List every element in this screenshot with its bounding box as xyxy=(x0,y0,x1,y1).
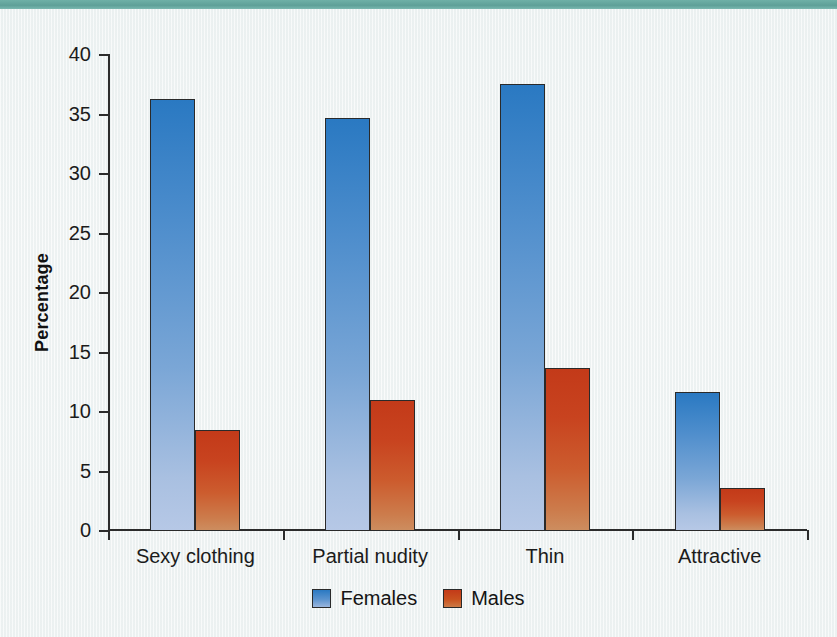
legend-swatch-icon-males xyxy=(443,589,462,608)
legend-swatch-icon-females xyxy=(312,589,331,608)
y-tick-mark xyxy=(99,173,109,175)
y-tick-mark xyxy=(99,411,109,413)
bar-chart-plot-area: Percentage 0510152025303540 Sexy clothin… xyxy=(0,0,837,637)
bar-females-4 xyxy=(675,392,720,531)
x-category-label-4: Attractive xyxy=(678,545,761,568)
chart-figure: Percentage 0510152025303540 Sexy clothin… xyxy=(0,0,837,637)
y-tick-label: 30 xyxy=(45,163,91,183)
x-category-label-1: Sexy clothing xyxy=(136,545,255,568)
y-tick-label: 20 xyxy=(45,282,91,302)
x-tick-mark xyxy=(807,530,809,540)
bar-males-1 xyxy=(195,430,240,531)
y-tick-label: 35 xyxy=(45,104,91,124)
legend-item-males: Males xyxy=(443,588,524,608)
bar-females-2 xyxy=(325,118,370,531)
x-tick-mark xyxy=(108,530,110,540)
y-tick-mark xyxy=(99,352,109,354)
y-tick-label: 15 xyxy=(45,342,91,362)
chart-legend: FemalesMales xyxy=(0,588,837,608)
y-tick-label: 40 xyxy=(45,44,91,64)
y-tick-label: 25 xyxy=(45,223,91,243)
y-tick-mark xyxy=(99,292,109,294)
x-category-label-3: Thin xyxy=(525,545,564,568)
y-tick-mark xyxy=(99,54,109,56)
y-tick-label: 10 xyxy=(45,401,91,421)
bar-females-1 xyxy=(150,99,195,531)
bar-females-3 xyxy=(500,84,545,531)
x-tick-mark xyxy=(283,530,285,540)
legend-label: Females xyxy=(340,588,417,608)
legend-label: Males xyxy=(471,588,524,608)
bar-males-3 xyxy=(545,368,590,531)
x-category-label-2: Partial nudity xyxy=(312,545,428,568)
y-tick-label: 0 xyxy=(45,520,91,540)
x-tick-mark xyxy=(632,530,634,540)
bar-males-2 xyxy=(370,400,415,531)
x-tick-mark xyxy=(458,530,460,540)
y-tick-mark xyxy=(99,471,109,473)
y-tick-mark xyxy=(99,114,109,116)
bar-males-4 xyxy=(720,488,765,531)
y-tick-mark xyxy=(99,233,109,235)
y-tick-label: 5 xyxy=(45,461,91,481)
legend-item-females: Females xyxy=(312,588,417,608)
